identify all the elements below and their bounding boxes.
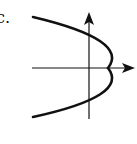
parabola-curve (33, 17, 112, 117)
x-axis (32, 63, 135, 73)
parabola-diagram (0, 0, 137, 144)
